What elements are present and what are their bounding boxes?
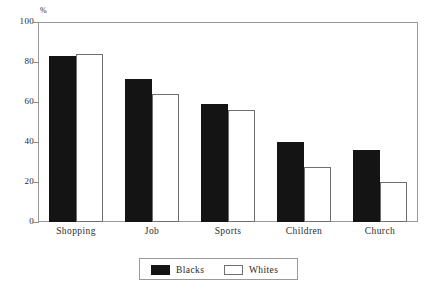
bar-shopping-whites	[76, 54, 103, 222]
x-axis-label-church: Church	[342, 226, 418, 236]
y-axis-tick-label: 80	[24, 56, 34, 66]
y-axis-tick-mark	[33, 182, 39, 183]
bar-chart: % 020406080100 ShoppingJobSportsChildren…	[0, 0, 437, 297]
y-axis-unit-label: %	[40, 6, 47, 15]
y-axis-tick-label: 40	[24, 136, 34, 146]
legend-label-whites: Whites	[249, 265, 278, 275]
y-axis-tick-mark	[33, 222, 39, 223]
bar-children-blacks	[277, 142, 304, 222]
legend-swatch-whites	[224, 265, 243, 275]
bar-church-whites	[380, 182, 407, 222]
bar-shopping-blacks	[49, 56, 76, 222]
legend-swatch-blacks	[151, 265, 170, 275]
y-axis-tick-label: 60	[24, 96, 34, 106]
bar-church-blacks	[353, 150, 380, 222]
bar-sports-whites	[228, 110, 255, 222]
y-axis-tick-label: 0	[29, 216, 34, 226]
y-axis-tick-mark	[33, 102, 39, 103]
y-axis-tick-mark	[33, 62, 39, 63]
legend-item-blacks: Blacks	[151, 263, 204, 277]
x-axis-label-shopping: Shopping	[38, 226, 114, 236]
bar-job-blacks	[125, 79, 152, 222]
bar-job-whites	[152, 94, 179, 222]
y-axis-tick-mark	[33, 142, 39, 143]
x-axis-label-sports: Sports	[190, 226, 266, 236]
bar-sports-blacks	[201, 104, 228, 222]
y-axis-tick-label: 100	[20, 16, 34, 26]
legend-label-blacks: Blacks	[176, 265, 204, 275]
x-axis-label-children: Children	[266, 226, 342, 236]
legend-item-whites: Whites	[224, 263, 278, 277]
chart-legend: Blacks Whites	[139, 258, 298, 280]
x-axis-label-job: Job	[114, 226, 190, 236]
y-axis-tick-label: 20	[24, 176, 34, 186]
y-axis-tick-mark	[33, 22, 39, 23]
bar-children-whites	[304, 167, 331, 222]
